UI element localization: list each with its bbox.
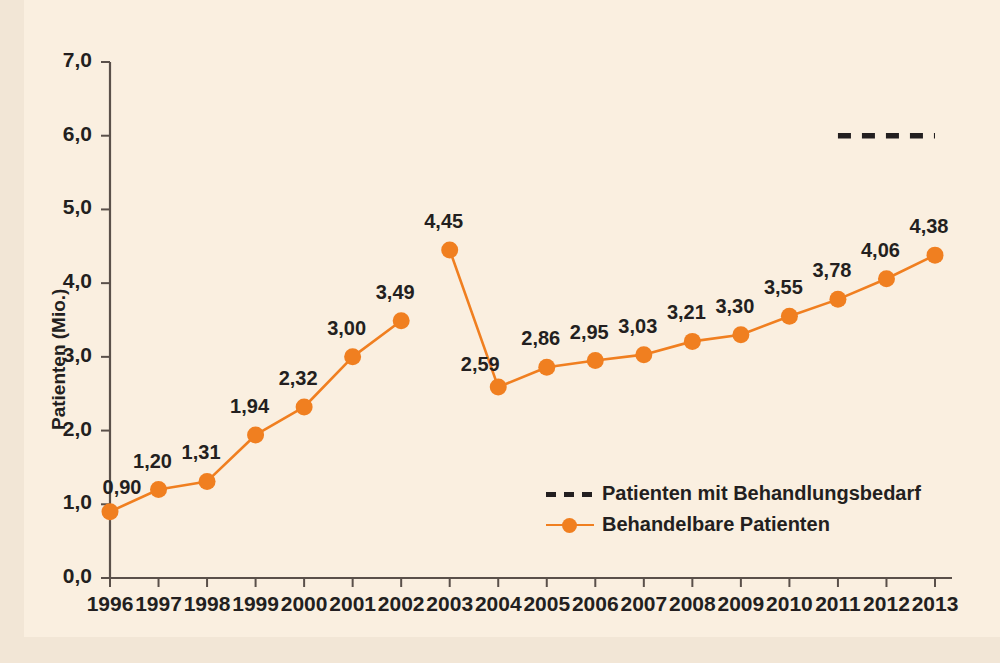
chart-plot-area: 0,01,02,03,04,05,06,07,0 199619971998199…	[0, 0, 1000, 663]
data-point-label: 3,49	[363, 281, 427, 304]
data-point-label: 4,06	[848, 239, 912, 262]
dashed-line-icon	[546, 483, 594, 505]
legend-label: Behandelbare Patienten	[602, 513, 830, 536]
data-point-label: 2,59	[448, 353, 512, 376]
data-point-label: 2,32	[266, 367, 330, 390]
x-tick-label: 2013	[905, 592, 965, 616]
chart-legend: Patienten mit Behandlungsbedarf Behandel…	[546, 478, 946, 540]
data-point-label: 1,94	[218, 395, 282, 418]
y-axis-ticks	[101, 62, 110, 578]
data-point-label: 3,78	[800, 259, 864, 282]
data-point-label: 0,90	[90, 476, 154, 499]
y-tick-label: 6,0	[38, 122, 92, 146]
y-tick-label: 7,0	[38, 48, 92, 72]
y-axis-title: Patienten (Mio.)	[48, 289, 70, 430]
data-point-label: 4,45	[412, 210, 476, 233]
data-point-label: 1,31	[169, 441, 233, 464]
y-tick-label: 1,0	[38, 490, 92, 514]
y-tick-label: 5,0	[38, 195, 92, 219]
legend-item-patienten-mit-behandlungsbedarf: Patienten mit Behandlungsbedarf	[546, 478, 946, 509]
y-tick-label: 0,0	[38, 564, 92, 588]
data-point-label: 3,00	[315, 317, 379, 340]
legend-item-behandelbare-patienten: Behandelbare Patienten	[546, 509, 946, 540]
chart-figure: 0,01,02,03,04,05,06,07,0 199619971998199…	[0, 0, 1000, 663]
legend-label: Patienten mit Behandlungsbedarf	[602, 482, 921, 505]
data-point-label: 4,38	[897, 215, 961, 238]
line-marker-icon	[546, 514, 594, 536]
chart-svg	[0, 0, 1000, 663]
x-axis-ticks	[110, 578, 935, 587]
